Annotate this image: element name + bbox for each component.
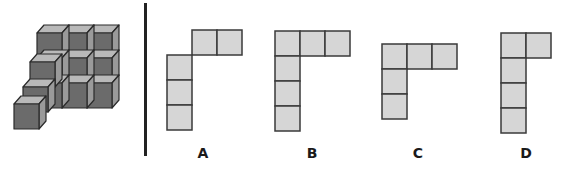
- option-label-c[interactable]: C: [403, 145, 433, 161]
- divider-line: [144, 3, 147, 156]
- option-cell: [167, 80, 192, 105]
- option-cell: [275, 106, 300, 131]
- option-cell: [501, 58, 526, 83]
- option-cell: [501, 33, 526, 58]
- puzzle-stage: A B C D: [0, 0, 569, 171]
- option-shape-c[interactable]: [382, 44, 457, 119]
- option-shape-a[interactable]: [167, 30, 242, 130]
- option-cell: [300, 31, 325, 56]
- option-cell: [325, 31, 350, 56]
- option-cell: [501, 108, 526, 133]
- cube-figure: [0, 0, 569, 171]
- option-cell: [382, 69, 407, 94]
- option-cell: [275, 31, 300, 56]
- cube-front-face: [14, 104, 39, 129]
- option-cell: [407, 44, 432, 69]
- option-cell: [382, 44, 407, 69]
- option-cell: [526, 33, 551, 58]
- option-cell: [167, 55, 192, 80]
- option-cell: [432, 44, 457, 69]
- option-label-d[interactable]: D: [511, 145, 541, 161]
- option-cell: [275, 81, 300, 106]
- option-label-a[interactable]: A: [188, 145, 218, 161]
- option-cell: [192, 30, 217, 55]
- option-shape-b[interactable]: [275, 31, 350, 131]
- option-cell: [382, 94, 407, 119]
- option-cell: [501, 83, 526, 108]
- option-label-b[interactable]: B: [297, 145, 327, 161]
- option-cell: [217, 30, 242, 55]
- option-cell: [275, 56, 300, 81]
- option-shape-d[interactable]: [501, 33, 551, 133]
- option-cell: [167, 105, 192, 130]
